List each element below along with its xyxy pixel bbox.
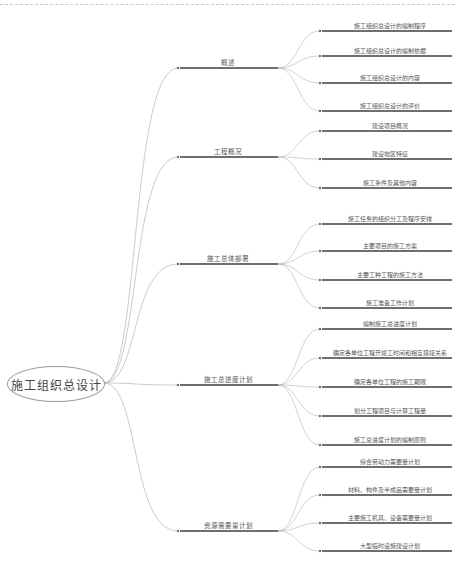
leaf-node[interactable]: 建设地区特征 (372, 150, 408, 158)
leaf-node[interactable]: 编制施工总进度计划 (363, 320, 417, 328)
leaf-node[interactable]: 确定各单位工程的施工期限 (354, 378, 426, 386)
leaf-node[interactable]: 综合劳动力需要量计划 (360, 458, 420, 466)
leaf-node[interactable]: 主要工种工程的施工方法 (357, 271, 423, 279)
leaf-node[interactable]: 确定各单位工程开竣工时间和相互搭接关系 (333, 349, 447, 357)
branch-node-4[interactable]: 资源需要量计划 (204, 522, 253, 530)
branch-node-2[interactable]: 施工总体部署 (207, 255, 249, 263)
leaf-node[interactable]: 材料、构件及半成品需要量计划 (348, 486, 432, 494)
leaf-node[interactable]: 划分工程项目与计算工程量 (354, 407, 426, 415)
leaf-node[interactable]: 施工总进度计划的编制原则 (354, 436, 426, 444)
mindmap-connectors (0, 0, 455, 564)
branch-node-3[interactable]: 施工总进度计划 (204, 376, 253, 384)
leaf-node[interactable]: 施工任务的组织分工及程序安排 (348, 215, 432, 223)
leaf-node[interactable]: 主要施工机具、设备需要量计划 (348, 514, 432, 522)
leaf-node[interactable]: 施工准备工作计划 (366, 299, 414, 307)
leaf-node[interactable]: 施工组织总设计的评价 (360, 102, 420, 110)
leaf-node[interactable]: 主要项目的施工方案 (363, 242, 417, 250)
leaf-node[interactable]: 施工条件及其他内容 (363, 179, 417, 187)
root-node-label: 施工组织总设计 (11, 376, 102, 393)
root-node[interactable]: 施工组织总设计 (7, 366, 105, 402)
branch-node-0[interactable]: 概述 (221, 59, 235, 67)
leaf-node[interactable]: 施工组织总设计的编制依据 (354, 47, 426, 55)
leaf-node[interactable]: 大型临时设施建设计划 (360, 542, 420, 550)
leaf-node[interactable]: 施工组织总设计的编制程序 (354, 22, 426, 30)
leaf-node[interactable]: 施工组织总设计的内容 (360, 74, 420, 82)
leaf-node[interactable]: 建设项目概况 (372, 122, 408, 130)
branch-node-1[interactable]: 工程概况 (214, 148, 242, 156)
